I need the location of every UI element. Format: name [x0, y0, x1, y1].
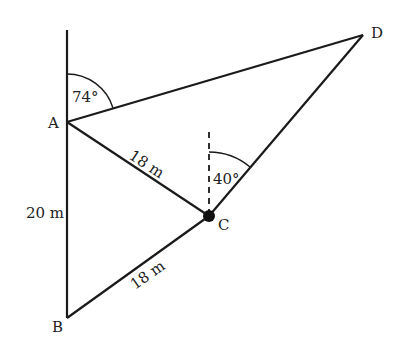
segment-BC	[67, 216, 209, 318]
segment-CD	[209, 35, 363, 216]
label-C: C	[218, 216, 229, 234]
segment-AD	[67, 35, 363, 122]
angle-label-A: 74°	[72, 88, 99, 106]
length-label-AC: 18 m	[126, 146, 168, 182]
point-C-dot	[203, 210, 215, 222]
label-A: A	[47, 114, 59, 132]
length-label-BC: 18 m	[127, 257, 169, 294]
length-label-AB: 20 m	[26, 204, 64, 222]
label-D: D	[371, 24, 383, 42]
angle-label-C: 40°	[213, 170, 240, 188]
angle-arc-C	[209, 152, 250, 167]
geometry-diagram: A B C D 74° 40° 20 m 18 m 18 m	[0, 0, 403, 350]
label-B: B	[52, 318, 63, 336]
